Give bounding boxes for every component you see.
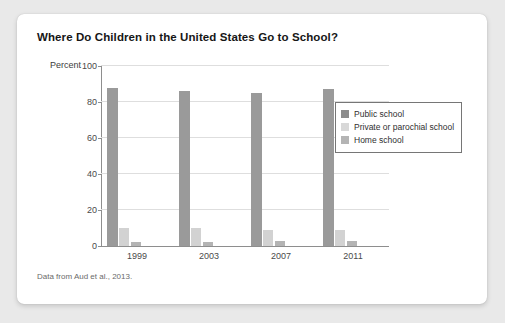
y-axis-title: Percent <box>50 60 81 70</box>
bar <box>131 242 141 246</box>
legend-label: Public school <box>354 109 404 119</box>
legend-item[interactable]: Home school <box>341 134 454 146</box>
bar <box>191 228 201 246</box>
y-tick-label: 60 <box>87 133 97 143</box>
legend-label: Home school <box>354 135 404 145</box>
y-tick-label: 40 <box>87 169 97 179</box>
bar <box>275 241 285 246</box>
bar <box>203 242 213 246</box>
y-tick-label: 100 <box>82 61 97 71</box>
bar-group: 2003 <box>173 66 245 246</box>
bar-group: 2007 <box>245 66 317 246</box>
legend-swatch-icon <box>341 136 349 144</box>
plot-area: 020406080100 1999200320072011 <box>101 66 389 246</box>
bar <box>335 230 345 246</box>
y-tick-mark <box>98 246 101 247</box>
x-tick-label: 1999 <box>101 251 173 261</box>
legend-swatch-icon <box>341 110 349 118</box>
bar <box>179 91 189 246</box>
legend-label: Private or parochial school <box>354 122 454 132</box>
source-note: Data from Aud et al., 2013. <box>37 272 132 281</box>
legend-item[interactable]: Private or parochial school <box>341 121 454 133</box>
bar <box>323 89 333 246</box>
y-tick-label: 20 <box>87 205 97 215</box>
legend-item[interactable]: Public school <box>341 108 454 120</box>
bar-group: 2011 <box>317 66 389 246</box>
chart-legend: Public schoolPrivate or parochial school… <box>335 102 462 153</box>
chart-card: Where Do Children in the United States G… <box>17 14 487 304</box>
bar <box>119 228 129 246</box>
bar <box>263 230 273 246</box>
x-tick-label: 2003 <box>173 251 245 261</box>
x-tick-label: 2011 <box>317 251 389 261</box>
x-tick-label: 2007 <box>245 251 317 261</box>
bar-group: 1999 <box>101 66 173 246</box>
bar <box>347 241 357 246</box>
bar <box>107 88 117 246</box>
bar <box>251 93 261 246</box>
y-tick-label: 80 <box>87 97 97 107</box>
page-title: Where Do Children in the United States G… <box>37 31 338 43</box>
y-tick-label: 0 <box>92 241 97 251</box>
legend-swatch-icon <box>341 123 349 131</box>
x-axis-line <box>101 246 389 247</box>
